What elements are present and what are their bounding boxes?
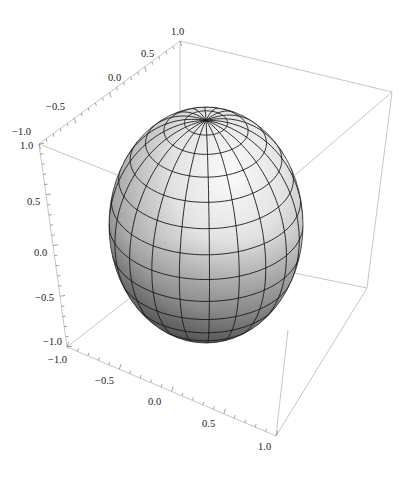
axis-tick bbox=[117, 87, 118, 90]
axis-tick bbox=[213, 406, 214, 409]
x-tick-label: −1.0 bbox=[48, 354, 67, 365]
axis-tick bbox=[159, 56, 160, 59]
axis-tick bbox=[46, 194, 51, 195]
z-tick-label: −0.5 bbox=[35, 292, 54, 303]
axis-tick bbox=[151, 380, 152, 383]
axis-tick bbox=[88, 353, 89, 356]
x-tick-label: 0.0 bbox=[148, 396, 161, 407]
x-tick-label: 1.0 bbox=[258, 441, 271, 452]
axis-tick bbox=[255, 424, 256, 427]
z-axis-labels: 1.0 0.5 0.0 −0.5 −1.0 bbox=[20, 140, 62, 347]
axis-tick bbox=[138, 72, 139, 75]
y-tick-label: 0.0 bbox=[108, 72, 121, 83]
axis-tick bbox=[109, 362, 110, 365]
axis-tick bbox=[119, 364, 121, 369]
axis-tick bbox=[266, 429, 267, 432]
axis-tick bbox=[245, 420, 246, 423]
x-tick-label: 0.5 bbox=[202, 418, 215, 429]
y-tick-label: −0.5 bbox=[46, 101, 65, 112]
axis-tick bbox=[182, 393, 183, 396]
sphere-surface bbox=[109, 107, 303, 343]
axis-tick bbox=[98, 357, 99, 360]
axis-tick bbox=[192, 397, 193, 400]
axis-tick bbox=[234, 415, 235, 418]
axis-tick bbox=[130, 371, 131, 374]
z-tick-label: 0.5 bbox=[27, 196, 40, 207]
axis-tick bbox=[172, 387, 174, 392]
axis-tick bbox=[131, 77, 132, 80]
axis-tick bbox=[145, 67, 147, 72]
axis-tick bbox=[60, 296, 65, 297]
axis-tick bbox=[152, 62, 153, 65]
axis-tick bbox=[60, 129, 61, 132]
x-tick-label: −0.5 bbox=[95, 375, 114, 386]
axis-tick bbox=[53, 134, 54, 137]
z-tick-label: −1.0 bbox=[43, 336, 62, 347]
axis-tick bbox=[88, 108, 89, 111]
axis-tick bbox=[224, 409, 226, 414]
sphere-3d-plot[interactable]: −1.0 −0.5 0.0 0.5 1.0 1.0 0.5 0.0 −0.5 −… bbox=[0, 0, 413, 478]
y-tick-label: 1.0 bbox=[171, 26, 184, 37]
axis-tick bbox=[161, 384, 162, 387]
axis-tick bbox=[74, 118, 76, 123]
axis-tick bbox=[124, 82, 125, 85]
z-tick-label: 0.0 bbox=[34, 247, 47, 258]
axis-tick bbox=[102, 98, 103, 101]
y-tick-label: −1.0 bbox=[12, 126, 31, 137]
axis-tick bbox=[53, 245, 58, 246]
axis-tick bbox=[77, 348, 78, 351]
axis-tick bbox=[140, 375, 141, 378]
y-axis-labels: −1.0 −0.5 0.0 0.5 1.0 bbox=[12, 26, 184, 137]
x-axis-labels: −1.0 −0.5 0.0 0.5 1.0 bbox=[48, 354, 271, 452]
axis-tick bbox=[95, 103, 96, 106]
y-tick-label: 0.5 bbox=[141, 48, 154, 59]
axis-tick bbox=[81, 113, 82, 116]
z-tick-label: 1.0 bbox=[20, 140, 33, 151]
axis-tick bbox=[173, 46, 174, 49]
axis-tick bbox=[110, 93, 112, 98]
axis-tick bbox=[203, 402, 204, 405]
axis-tick bbox=[46, 139, 47, 142]
axis-tick bbox=[166, 51, 167, 54]
axis-tick bbox=[67, 123, 68, 126]
